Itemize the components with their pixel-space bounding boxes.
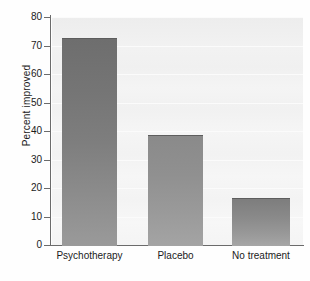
- x-tick-label: No treatment: [201, 250, 310, 261]
- y-tick-label: 30: [12, 155, 42, 165]
- y-tick-label: 50: [12, 98, 42, 108]
- y-tick-label: 70: [12, 41, 42, 51]
- bar-no-treatment: [232, 198, 290, 246]
- bar-psychotherapy: [62, 38, 117, 246]
- y-tick-mark: [44, 17, 50, 18]
- y-tick-mark: [44, 245, 50, 246]
- y-tick-label: 80: [12, 12, 42, 22]
- y-tick-mark: [44, 131, 50, 132]
- y-axis-line: [50, 15, 51, 246]
- bar-chart: Percent improved 01020304050607080 Psych…: [0, 0, 310, 281]
- y-tick-mark: [44, 217, 50, 218]
- y-tick-mark: [44, 103, 50, 104]
- y-tick-mark: [44, 74, 50, 75]
- y-tick-mark: [44, 160, 50, 161]
- y-tick-label: 40: [12, 126, 42, 136]
- y-tick-label: 10: [12, 212, 42, 222]
- y-tick-mark: [44, 46, 50, 47]
- y-tick-mark: [44, 188, 50, 189]
- gridline: [52, 17, 303, 18]
- bar-placebo: [148, 135, 203, 246]
- y-tick-label: 0: [12, 240, 42, 250]
- y-tick-label: 20: [12, 183, 42, 193]
- y-tick-label: 60: [12, 69, 42, 79]
